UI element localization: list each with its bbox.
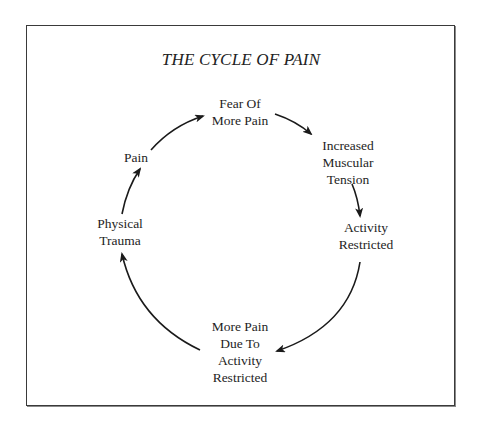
node-pain: Pain xyxy=(106,149,166,166)
node-line: Muscular xyxy=(293,154,403,171)
node-line: Due To xyxy=(190,335,290,352)
node-activity-restricted: Activity Restricted xyxy=(316,219,416,253)
node-line: Activity xyxy=(316,219,416,236)
node-more-pain-due-to-activity-restricted: More Pain Due To Activity Restricted xyxy=(190,318,290,386)
node-line: Increased xyxy=(293,137,403,154)
node-line: More Pain xyxy=(190,318,290,335)
arrow-trauma-to-pain xyxy=(122,169,140,214)
node-increased-muscular-tension: Increased Muscular Tension xyxy=(293,137,403,188)
node-line: Restricted xyxy=(190,369,290,386)
arrow-morepain-to-trauma xyxy=(122,254,200,350)
node-line: Trauma xyxy=(75,232,165,249)
node-line: Physical xyxy=(75,215,165,232)
node-line: Tension xyxy=(293,171,403,188)
node-physical-trauma: Physical Trauma xyxy=(75,215,165,249)
node-line: Fear Of xyxy=(190,95,290,112)
node-line: Restricted xyxy=(316,236,416,253)
arrow-tension-to-activity xyxy=(352,184,360,216)
node-line: More Pain xyxy=(190,112,290,129)
node-line: Pain xyxy=(106,149,166,166)
node-line: Activity xyxy=(190,352,290,369)
node-fear-of-more-pain: Fear Of More Pain xyxy=(190,95,290,129)
